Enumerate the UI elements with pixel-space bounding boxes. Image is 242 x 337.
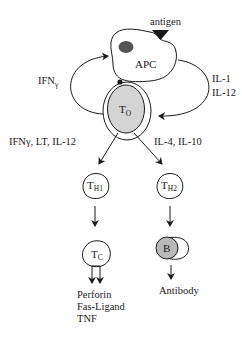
th1-cytokines-label: IFNγ, LT, IL-12 [9,136,76,147]
th1-differentiation-arrow [99,133,118,164]
apc-nucleus [119,41,134,53]
antibody-label: Antibody [159,285,199,296]
antigen-label: antigen [150,16,182,27]
th2-label: TH2 [161,179,177,193]
b-cell-label: B [163,242,170,254]
th2-cytokines-label: IL-4, IL-10 [154,136,202,147]
tnf-label: TNF [77,313,97,324]
il12-label: IL-12 [212,87,236,98]
il1-label: IL-1 [212,73,231,84]
perforin-label: Perforin [77,289,112,300]
immune-response-diagram: antigen APC TO IFNγ IL-1 IL-12 IFNγ, LT,… [0,0,242,337]
ifn-gamma-feedback-arrow [71,56,108,114]
apc-label: APC [135,58,156,70]
tc-label: TC [91,248,103,262]
ifn-gamma-label: IFNγ [38,75,59,89]
fas-ligand-label: Fas-Ligand [77,301,126,312]
apc-cell [111,29,177,82]
th1-label: TH1 [87,179,103,193]
antigen-triangle-icon [152,30,169,40]
il1-il12-arrow [159,60,209,116]
